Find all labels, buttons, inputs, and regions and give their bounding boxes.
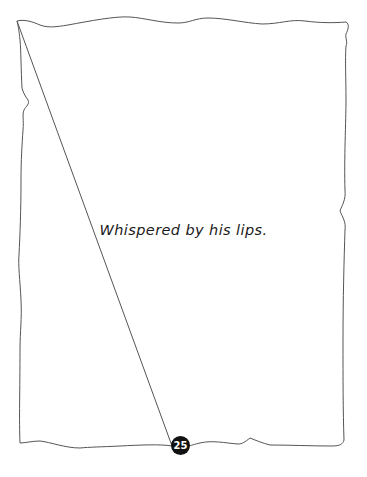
page-number-badge: 25 — [171, 436, 190, 455]
book-page: Whispered by his lips. 25 — [0, 0, 367, 477]
hand-drawn-page-frame — [0, 0, 367, 477]
story-caption: Whispered by his lips. — [0, 222, 367, 238]
